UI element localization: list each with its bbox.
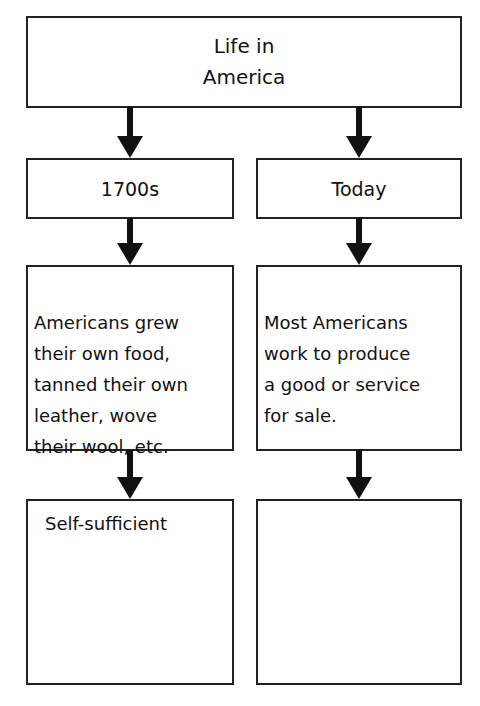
era-label: 1700s bbox=[101, 178, 159, 200]
arrow-down-icon bbox=[117, 107, 143, 158]
result-text: Self-sufficient bbox=[45, 513, 167, 534]
description-text: Most Americans work to produce a good or… bbox=[264, 312, 420, 426]
arrow-down-icon bbox=[117, 450, 143, 499]
era-box-1700s: 1700s bbox=[26, 158, 234, 219]
description-box-today: Most Americans work to produce a good or… bbox=[256, 265, 462, 451]
title-box: Life in America bbox=[26, 16, 462, 108]
arrow-down-icon bbox=[117, 218, 143, 265]
result-box-1700s: Self-sufficient bbox=[26, 499, 234, 685]
arrow-down-icon bbox=[346, 107, 372, 158]
era-box-today: Today bbox=[256, 158, 462, 219]
description-text: Americans grew their own food, tanned th… bbox=[34, 312, 188, 457]
arrow-down-icon bbox=[346, 218, 372, 265]
arrow-down-icon bbox=[346, 450, 372, 499]
era-label: Today bbox=[332, 178, 387, 200]
result-box-today[interactable] bbox=[256, 499, 462, 685]
description-box-1700s: Americans grew their own food, tanned th… bbox=[26, 265, 234, 451]
title-text: Life in America bbox=[203, 31, 286, 93]
